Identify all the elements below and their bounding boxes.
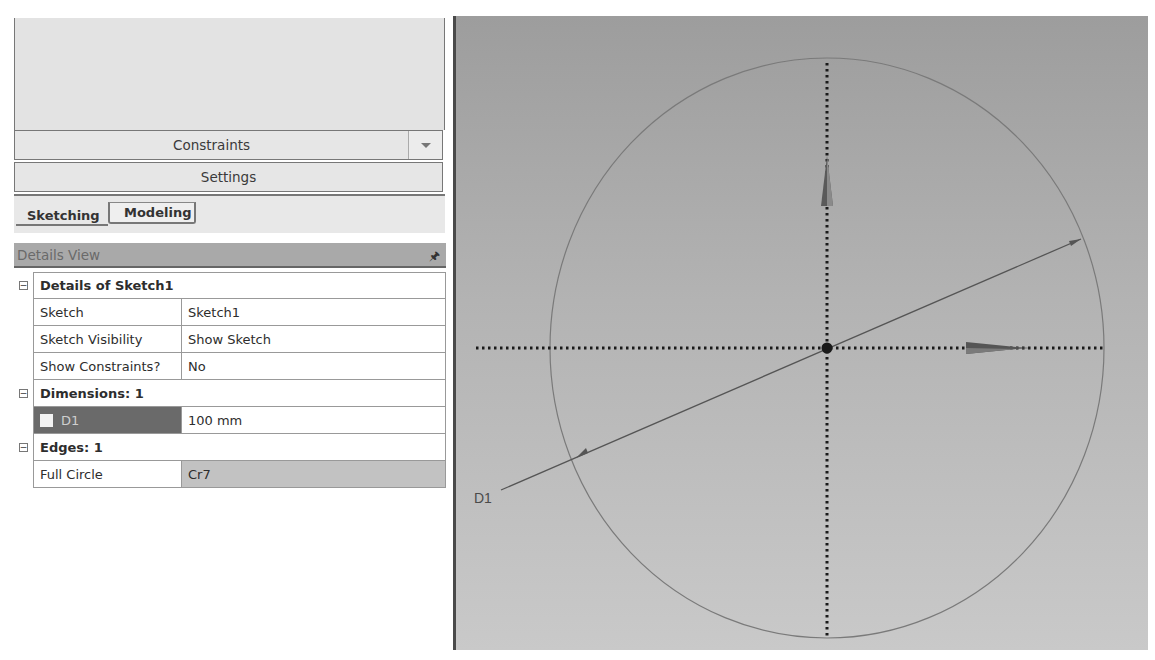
property-name[interactable]: D1 [33, 407, 182, 434]
collapse-icon[interactable]: − [14, 272, 33, 299]
property-value: Cr7 [182, 461, 446, 488]
graphics-viewport[interactable]: D1 [453, 16, 1148, 650]
property-row[interactable]: Sketch Visibility Show Sketch [14, 326, 446, 353]
pin-icon[interactable]: 🖈︎ [429, 247, 440, 268]
section-header-dimensions[interactable]: − Dimensions: 1 [14, 380, 446, 407]
collapse-icon[interactable]: − [14, 380, 33, 407]
indent-spacer [14, 326, 33, 353]
property-value[interactable]: Show Sketch [182, 326, 446, 353]
property-name: Sketch [33, 299, 182, 326]
section-header-edges[interactable]: − Edges: 1 [14, 434, 446, 461]
chevron-down-icon [421, 143, 431, 148]
section-header-details[interactable]: − Details of Sketch1 [14, 272, 446, 299]
constraints-dropdown-button[interactable] [408, 131, 442, 159]
property-row[interactable]: Sketch Sketch1 [14, 299, 446, 326]
property-row[interactable]: Show Constraints? No [14, 353, 446, 380]
dimension-value[interactable]: 100 mm [182, 407, 446, 434]
x-axis-arrow-shade [966, 348, 1016, 354]
settings-toolbox-button[interactable]: Settings [14, 162, 443, 192]
property-value[interactable]: Sketch1 [182, 299, 446, 326]
indent-spacer [14, 299, 33, 326]
tree-outline-area [14, 18, 445, 130]
property-name: Sketch Visibility [33, 326, 182, 353]
details-view-header: Details View 🖈︎ [14, 243, 446, 268]
property-row[interactable]: Full Circle Cr7 [14, 461, 446, 488]
mode-tabs: Sketching Modeling [14, 194, 445, 233]
parameter-checkbox[interactable] [40, 414, 53, 427]
sketch-canvas[interactable] [456, 16, 1148, 650]
property-name: Full Circle [33, 461, 182, 488]
property-name: Show Constraints? [33, 353, 182, 380]
section-title: Dimensions: 1 [33, 380, 446, 407]
property-row-d1[interactable]: D1 100 mm [14, 407, 446, 434]
indent-spacer [14, 407, 33, 434]
indent-spacer [14, 353, 33, 380]
tab-sketching[interactable]: Sketching [16, 202, 108, 226]
details-view-title: Details View [17, 247, 100, 263]
section-title: Edges: 1 [33, 434, 446, 461]
dimension-label-d1[interactable]: D1 [474, 490, 492, 506]
tab-modeling[interactable]: Modeling [108, 202, 196, 224]
dimension-arrow-icon [576, 448, 588, 458]
constraints-toolbox-button[interactable]: Constraints [14, 130, 443, 160]
indent-spacer [14, 461, 33, 488]
property-value[interactable]: No [182, 353, 446, 380]
details-grid: − Details of Sketch1 Sketch Sketch1 Sket… [14, 272, 446, 488]
origin-point[interactable] [822, 343, 833, 354]
section-title: Details of Sketch1 [33, 272, 446, 299]
settings-label: Settings [201, 169, 256, 185]
constraints-label: Constraints [15, 137, 408, 153]
y-axis-arrow-shade [827, 156, 833, 206]
dimension-name: D1 [61, 413, 79, 428]
collapse-icon[interactable]: − [14, 434, 33, 461]
dimension-arrow-icon [1069, 239, 1081, 246]
dimension-line-d1[interactable] [501, 239, 1081, 490]
